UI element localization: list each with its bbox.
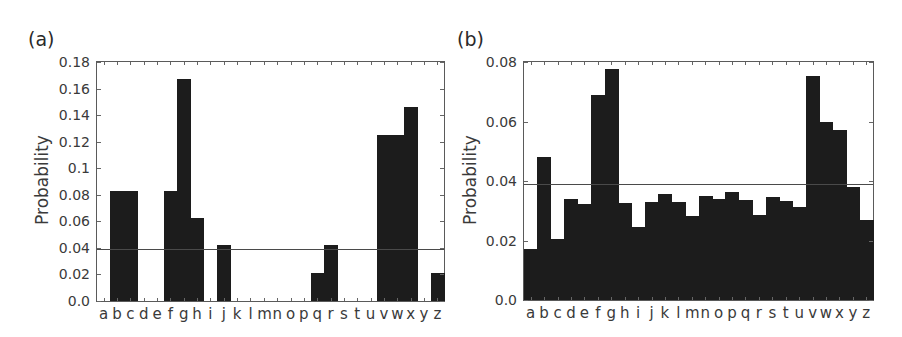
y-tick-label: 0.04: [473, 173, 517, 189]
bar-o: [712, 199, 726, 300]
x-tick-label-d: d: [564, 305, 577, 321]
x-tick-mark: [584, 297, 585, 300]
x-tick-label-h: h: [618, 305, 631, 321]
bar-w: [819, 122, 833, 300]
bar-c: [551, 239, 565, 300]
plot-area-b: [523, 61, 874, 301]
bar-n: [699, 196, 713, 300]
x-tick-mark: [853, 62, 854, 65]
x-tick-mark: [665, 62, 666, 65]
x-tick-mark: [638, 62, 639, 65]
x-tick-mark: [745, 62, 746, 65]
x-tick-mark: [598, 62, 599, 65]
x-tick-mark: [531, 62, 532, 65]
bar-s: [766, 197, 780, 300]
x-tick-mark: [692, 297, 693, 300]
x-tick-mark: [571, 62, 572, 65]
x-tick-label-j: j: [645, 305, 658, 321]
x-tick-label-w: w: [819, 305, 832, 321]
y-tick-mark: [524, 241, 528, 242]
y-tick-label: 0.0: [473, 292, 517, 308]
x-tick-label-y: y: [846, 305, 859, 321]
x-tick-label-z: z: [860, 305, 873, 321]
x-tick-mark: [678, 297, 679, 300]
bar-i: [631, 227, 645, 300]
x-tick-mark: [732, 62, 733, 65]
bar-u: [792, 207, 806, 300]
x-tick-label-m: m: [685, 305, 698, 321]
bar-q: [739, 200, 753, 300]
x-tick-mark: [598, 297, 599, 300]
x-tick-label-s: s: [766, 305, 779, 321]
y-tick-mark: [524, 181, 528, 182]
x-tick-mark: [544, 297, 545, 300]
x-tick-label-x: x: [833, 305, 846, 321]
x-tick-label-g: g: [605, 305, 618, 321]
x-tick-mark: [759, 297, 760, 300]
x-tick-label-a: a: [524, 305, 537, 321]
bar-z: [860, 220, 874, 300]
x-tick-label-r: r: [752, 305, 765, 321]
x-tick-mark: [799, 297, 800, 300]
y-tick-label: 0.06: [473, 114, 517, 130]
x-tick-mark: [611, 62, 612, 65]
x-tick-mark: [625, 62, 626, 65]
x-tick-mark: [652, 297, 653, 300]
bar-v: [806, 76, 820, 300]
x-tick-mark: [799, 62, 800, 65]
x-tick-label-u: u: [792, 305, 805, 321]
bar-x: [833, 130, 847, 300]
panel-label-b: (b): [457, 28, 484, 50]
x-tick-mark: [839, 62, 840, 65]
x-tick-mark: [558, 62, 559, 65]
bar-b: [537, 157, 551, 300]
x-tick-mark: [705, 62, 706, 65]
bar-d: [564, 199, 578, 300]
x-tick-mark: [826, 297, 827, 300]
y-tick-mark: [869, 122, 873, 123]
x-tick-label-e: e: [578, 305, 591, 321]
x-tick-mark: [678, 62, 679, 65]
x-tick-mark: [732, 297, 733, 300]
x-tick-label-p: p: [725, 305, 738, 321]
reference-line: [524, 184, 873, 185]
x-tick-mark: [705, 297, 706, 300]
x-tick-mark: [813, 62, 814, 65]
bar-e: [578, 204, 592, 300]
chart-panel-b: (b) Probability 0.00.020.040.060.08 abcd…: [0, 0, 902, 337]
x-tick-label-q: q: [739, 305, 752, 321]
y-tick-mark: [869, 62, 873, 63]
bar-k: [658, 194, 672, 300]
bar-t: [779, 201, 793, 300]
bar-p: [725, 192, 739, 300]
x-tick-mark: [531, 297, 532, 300]
x-tick-label-i: i: [631, 305, 644, 321]
x-tick-mark: [839, 297, 840, 300]
x-tick-mark: [625, 297, 626, 300]
y-tick-label: 0.02: [473, 233, 517, 249]
bar-a: [524, 249, 538, 300]
x-tick-label-f: f: [591, 305, 604, 321]
x-tick-mark: [558, 297, 559, 300]
x-tick-mark: [719, 297, 720, 300]
bar-r: [752, 215, 766, 300]
x-tick-mark: [692, 62, 693, 65]
x-tick-mark: [772, 62, 773, 65]
bar-y: [846, 187, 860, 300]
x-tick-mark: [745, 297, 746, 300]
x-tick-mark: [866, 297, 867, 300]
x-tick-label-k: k: [658, 305, 671, 321]
y-tick-mark: [869, 241, 873, 242]
x-tick-mark: [584, 62, 585, 65]
bar-l: [672, 202, 686, 300]
x-tick-label-t: t: [779, 305, 792, 321]
y-tick-mark: [524, 62, 528, 63]
x-tick-mark: [571, 297, 572, 300]
y-tick-mark: [524, 300, 528, 301]
x-tick-mark: [665, 297, 666, 300]
x-tick-label-b: b: [537, 305, 550, 321]
y-tick-mark: [869, 181, 873, 182]
x-tick-label-n: n: [699, 305, 712, 321]
x-tick-mark: [652, 62, 653, 65]
bar-h: [618, 203, 632, 300]
